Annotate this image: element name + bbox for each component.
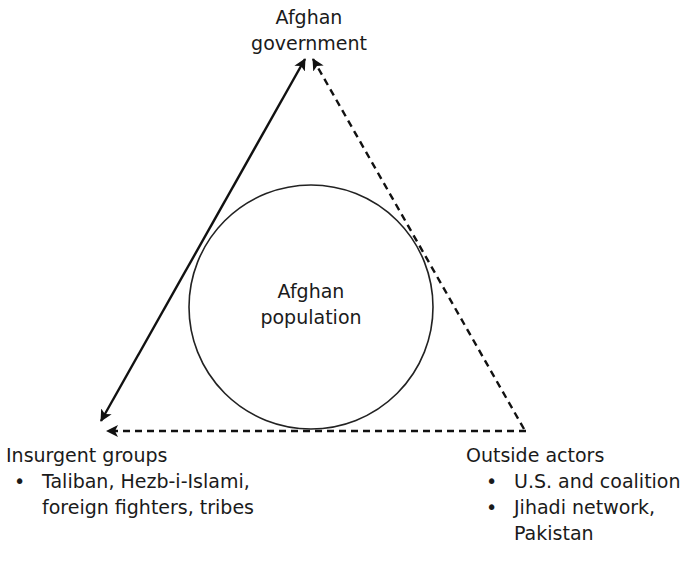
outside-actors-title: Outside actors	[466, 442, 681, 468]
bullet-icon: •	[486, 468, 497, 494]
edge-outside-government-dashed-arrow	[313, 59, 524, 429]
node-afghan-population: Afghan population	[211, 278, 411, 330]
government-label-line2: government	[209, 30, 409, 56]
list-item: • Taliban, Hezb-i-Islami, foreign fighte…	[8, 468, 254, 520]
population-label-line1: Afghan	[211, 278, 411, 304]
outside-actors-list: • U.S. and coalition • Jihadi network, P…	[480, 468, 681, 546]
edge-insurgents-government-solid-arrow	[101, 59, 305, 421]
list-item: • Jihadi network, Pakistan	[480, 494, 681, 546]
node-afghan-government: Afghan government	[209, 4, 409, 56]
insurgent-groups-list: • Taliban, Hezb-i-Islami, foreign fighte…	[8, 468, 254, 520]
bullet-icon: •	[14, 468, 25, 494]
node-outside-actors: Outside actors • U.S. and coalition • Ji…	[466, 442, 681, 546]
government-label-line1: Afghan	[209, 4, 409, 30]
list-item: • U.S. and coalition	[480, 468, 681, 494]
bullet-icon: •	[486, 494, 497, 520]
population-label-line2: population	[211, 304, 411, 330]
insurgent-groups-title: Insurgent groups	[6, 442, 254, 468]
node-insurgent-groups: Insurgent groups • Taliban, Hezb-i-Islam…	[6, 442, 254, 520]
